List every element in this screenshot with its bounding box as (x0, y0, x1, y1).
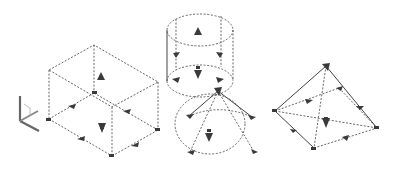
grip-arrow-down-icon[interactable] (194, 70, 202, 79)
box-solid[interactable] (46, 45, 160, 157)
cylinder-solid[interactable] (167, 14, 233, 97)
box-grips[interactable] (46, 72, 160, 157)
grip-square-icon[interactable] (92, 91, 97, 94)
grip-arrow-up-icon[interactable] (97, 72, 105, 80)
pyramid-grips[interactable] (272, 63, 379, 150)
drawing-canvas (0, 0, 398, 169)
grip-arrow-up-icon[interactable] (194, 27, 202, 35)
cone-solid[interactable] (175, 87, 258, 155)
grip-arrow-down-icon[interactable] (205, 133, 213, 142)
cylinder-grips[interactable] (172, 27, 224, 83)
ucs-icon (20, 96, 39, 131)
pyramid-solid[interactable] (272, 63, 379, 150)
